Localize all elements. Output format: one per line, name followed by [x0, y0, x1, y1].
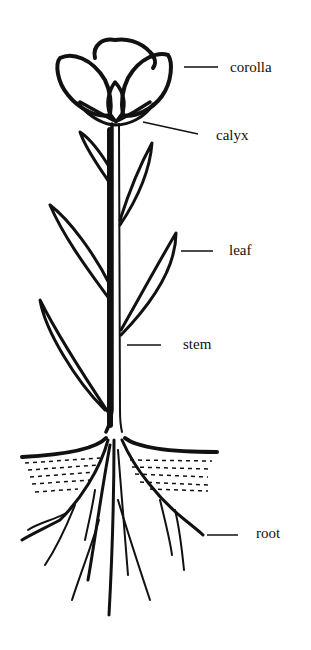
stem [106, 124, 122, 432]
label-root: root [256, 526, 280, 541]
label-stem: stem [183, 337, 211, 352]
label-corolla: corolla [230, 60, 272, 75]
label-calyx: calyx [216, 128, 248, 143]
plant-illustration [0, 0, 311, 650]
plant-diagram: corolla calyx leaf stem root [0, 0, 311, 650]
label-leaf: leaf [229, 243, 251, 258]
leader-line-calyx [143, 122, 198, 134]
roots [22, 440, 203, 615]
